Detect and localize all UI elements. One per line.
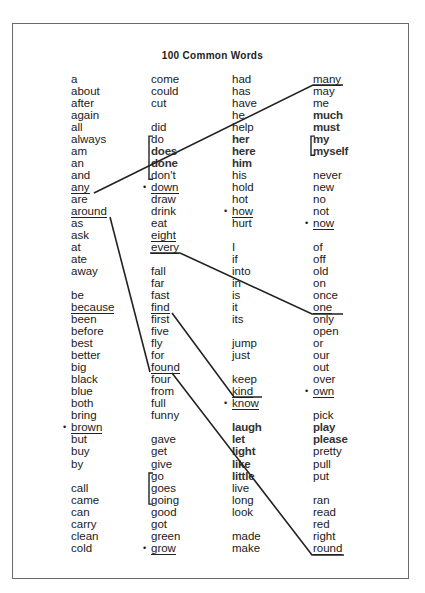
word-text: him — [232, 157, 252, 169]
word-text: laugh — [232, 421, 262, 433]
word-text: all — [71, 121, 83, 133]
word-item: by — [71, 458, 114, 470]
word-text: cold — [71, 542, 92, 554]
bullet-icon: • — [63, 421, 66, 433]
word-item: look — [232, 506, 262, 518]
word-item: an — [71, 157, 114, 169]
word-item: been — [71, 313, 114, 325]
word-item: are — [71, 193, 114, 205]
word-text: right — [313, 530, 335, 542]
word-text: jump — [232, 337, 257, 349]
word-item: if — [232, 253, 262, 265]
word-item: a — [71, 73, 114, 85]
bullet-icon: • — [305, 385, 308, 397]
word-item: jump — [232, 337, 262, 349]
word-text: be — [71, 289, 84, 301]
word-text: let — [232, 433, 245, 445]
word-item: many — [313, 73, 348, 85]
word-item: help — [232, 121, 262, 133]
word-item: long — [232, 494, 262, 506]
word-column-3: hadhashavehehelpherherehimhisholdhot•how… — [232, 73, 262, 554]
word-item: into — [232, 265, 262, 277]
word-item: let — [232, 433, 262, 445]
word-text: red — [313, 518, 330, 530]
word-text: goes — [151, 482, 176, 494]
word-item: must — [313, 121, 348, 133]
word-item: here — [232, 145, 262, 157]
word-item: on — [313, 277, 348, 289]
word-item: did — [151, 121, 180, 133]
word-text: blue — [71, 385, 93, 397]
word-item: put — [313, 470, 348, 482]
word-text: he — [232, 109, 245, 121]
word-text: ate — [71, 253, 87, 265]
spacer — [313, 397, 348, 409]
spacer — [313, 157, 348, 169]
word-text: green — [151, 530, 180, 542]
word-item: good — [151, 506, 180, 518]
word-text: first — [151, 313, 170, 325]
word-item: old — [313, 265, 348, 277]
word-text: much — [313, 109, 343, 121]
word-text: live — [232, 482, 249, 494]
word-text: make — [232, 542, 260, 554]
word-item: •down — [151, 181, 180, 193]
word-item: again — [71, 109, 114, 121]
word-item: read — [313, 506, 348, 518]
word-item: as — [71, 217, 114, 229]
word-item: one — [313, 301, 348, 313]
word-item: fast — [151, 289, 180, 301]
word-item: right — [313, 530, 348, 542]
word-text: out — [313, 361, 329, 373]
word-item: do — [151, 133, 180, 145]
word-item: open — [313, 325, 348, 337]
word-text: ran — [313, 494, 330, 506]
word-item: please — [313, 433, 348, 445]
word-text: put — [313, 470, 329, 482]
word-text: call — [71, 482, 88, 494]
word-text: but — [71, 433, 87, 445]
word-item: round — [313, 542, 348, 554]
word-item: before — [71, 325, 114, 337]
word-item: got — [151, 518, 180, 530]
word-item: has — [232, 85, 262, 97]
spacer — [313, 482, 348, 494]
word-item: at — [71, 241, 114, 253]
word-item: •how — [232, 205, 262, 217]
word-item: funny — [151, 409, 180, 421]
word-text: grow — [151, 542, 176, 555]
word-item: ate — [71, 253, 114, 265]
word-text: gave — [151, 433, 176, 445]
word-text: drink — [151, 205, 176, 217]
word-item: four — [151, 373, 180, 385]
word-item: does — [151, 145, 180, 157]
word-text: ask — [71, 229, 89, 241]
word-item: hurt — [232, 217, 262, 229]
word-item: buy — [71, 445, 114, 457]
word-text: by — [71, 458, 83, 470]
word-text: away — [71, 265, 98, 277]
word-item: be — [71, 289, 114, 301]
word-text: fall — [151, 265, 166, 277]
word-text: funny — [151, 409, 179, 421]
word-item: it — [232, 301, 262, 313]
word-item: off — [313, 253, 348, 265]
word-item: big — [71, 361, 114, 373]
word-item: about — [71, 85, 114, 97]
word-item: always — [71, 133, 114, 145]
word-text: light — [232, 445, 255, 457]
word-item: his — [232, 169, 262, 181]
word-item: play — [313, 421, 348, 433]
word-text: or — [313, 337, 323, 349]
bullet-icon: • — [143, 542, 146, 554]
word-text: only — [313, 313, 334, 325]
word-text: carry — [71, 518, 97, 530]
word-text: got — [151, 518, 167, 530]
word-item: he — [232, 109, 262, 121]
word-column-2: comecouldcutdiddodoesdonedon't•downdrawd… — [151, 73, 180, 554]
word-item: •now — [313, 217, 348, 229]
word-text: must — [313, 121, 340, 133]
word-text: go — [151, 470, 164, 482]
word-item: have — [232, 97, 262, 109]
word-item: much — [313, 109, 348, 121]
